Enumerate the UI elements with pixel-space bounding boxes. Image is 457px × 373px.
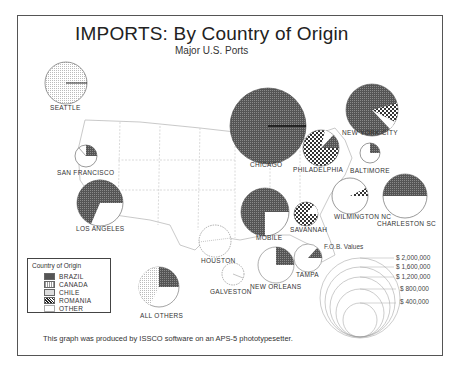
label-baltimore: BALTIMORE bbox=[350, 167, 390, 174]
label-houston: HOUSTON bbox=[201, 257, 235, 264]
legend-item-brazil: BRAZIL bbox=[44, 272, 84, 280]
fob-label-800000: $ 800,000 bbox=[400, 285, 429, 292]
label-mobile: MOBILE bbox=[256, 234, 283, 241]
canada-swatch bbox=[44, 281, 55, 288]
label-los-angeles: LOS ANGELES bbox=[76, 225, 125, 232]
other-swatch bbox=[44, 305, 55, 312]
romania-swatch bbox=[44, 297, 55, 304]
legend-item-romania: ROMANIA bbox=[44, 296, 91, 304]
pie-charleston bbox=[383, 174, 427, 218]
label-chicago: CHICAGO bbox=[250, 161, 282, 168]
pie-philadelphia bbox=[303, 130, 339, 166]
fob-label-1200000: $ 1,200,000 bbox=[396, 273, 430, 280]
pie-los-angeles bbox=[77, 180, 123, 226]
fob-scale-title: F.O.B. Values bbox=[324, 243, 363, 250]
label-new-york-city: NEW YORK CITY bbox=[342, 129, 398, 136]
fob-label-400000: $ 400,000 bbox=[400, 298, 429, 305]
pie-mobile bbox=[241, 188, 289, 236]
chile-swatch bbox=[44, 289, 55, 296]
label-san-francisco: SAN FRANCISCO bbox=[57, 169, 114, 176]
legend-title: Country of Origin bbox=[32, 262, 81, 269]
label-wilmington-nc: WILMINGTON NC bbox=[334, 213, 391, 220]
pie-savannah bbox=[294, 202, 318, 226]
fob-size-scale bbox=[320, 258, 400, 338]
legend-item-chile: CHILE bbox=[44, 288, 80, 296]
label-savannah: SAVANNAH bbox=[290, 226, 327, 233]
pie-chicago bbox=[230, 88, 306, 164]
pie-wilmington bbox=[332, 178, 368, 214]
footer-note: This graph was produced by ISSCO softwar… bbox=[43, 334, 293, 343]
label-all-others: ALL OTHERS bbox=[140, 312, 184, 319]
label-tampa: TAMPA bbox=[296, 271, 319, 278]
label-philadelphia: PHILADELPHIA bbox=[293, 166, 344, 173]
legend-item-other: OTHER bbox=[44, 304, 83, 312]
fob-label-1600000: $ 1,600,000 bbox=[396, 263, 430, 270]
label-charleston-sc: CHARLESTON SC bbox=[377, 220, 436, 227]
pie-tampa bbox=[294, 244, 322, 272]
fob-label-2000000: $ 2,000,000 bbox=[396, 254, 430, 261]
pie-baltimore bbox=[360, 143, 380, 163]
pie-new-orleans bbox=[258, 247, 294, 283]
pie-seattle bbox=[45, 62, 87, 104]
label-seattle: SEATTLE bbox=[50, 104, 81, 111]
pie-houston bbox=[199, 225, 231, 257]
us-map-with-pies: SEATTLE SAN FRANCISCO LOS ANGELES CHICAG… bbox=[0, 0, 457, 373]
legend: Country of Origin BRAZIL CANADA CHILE RO… bbox=[27, 258, 111, 313]
label-new-orleans: NEW ORLEANS bbox=[250, 283, 302, 290]
legend-item-canada: CANADA bbox=[44, 280, 88, 288]
pie-all-others bbox=[139, 267, 179, 307]
pie-san-francisco bbox=[75, 145, 97, 167]
pie-galveston bbox=[222, 263, 244, 285]
label-galveston: GALVESTON bbox=[210, 288, 252, 295]
brazil-swatch bbox=[44, 273, 55, 280]
